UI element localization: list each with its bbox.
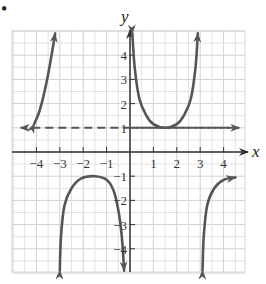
y-tick-label: −4 bbox=[113, 242, 127, 257]
x-axis-label: x bbox=[251, 142, 260, 161]
x-tick-label: −4 bbox=[29, 156, 43, 171]
y-tick-label: −2 bbox=[113, 193, 127, 208]
x-tick-label: 2 bbox=[174, 156, 181, 171]
x-tick-label: −1 bbox=[100, 156, 114, 171]
curve-left-upper-branch bbox=[34, 33, 55, 124]
x-tick-label: −3 bbox=[53, 156, 67, 171]
curve-right-lower-branch bbox=[203, 177, 236, 270]
axes bbox=[12, 30, 248, 272]
y-tick-label: 1 bbox=[121, 121, 128, 136]
y-tick-label: −3 bbox=[113, 218, 127, 233]
y-tick-label: 4 bbox=[121, 48, 128, 63]
y-tick-label: −1 bbox=[113, 169, 127, 184]
x-tick-label: −2 bbox=[76, 156, 90, 171]
graph-plot: −4−3−2−112344321−1−2−3−4xy bbox=[0, 0, 266, 284]
y-axis-label: y bbox=[119, 7, 129, 26]
x-tick-label: 4 bbox=[220, 156, 227, 171]
y-tick-label: 3 bbox=[121, 72, 128, 87]
axis-labels: −4−3−2−112344321−1−2−3−4xy bbox=[29, 7, 260, 257]
y-tick-label: 2 bbox=[121, 97, 128, 112]
x-tick-label: 3 bbox=[197, 156, 204, 171]
x-tick-label: 1 bbox=[150, 156, 157, 171]
